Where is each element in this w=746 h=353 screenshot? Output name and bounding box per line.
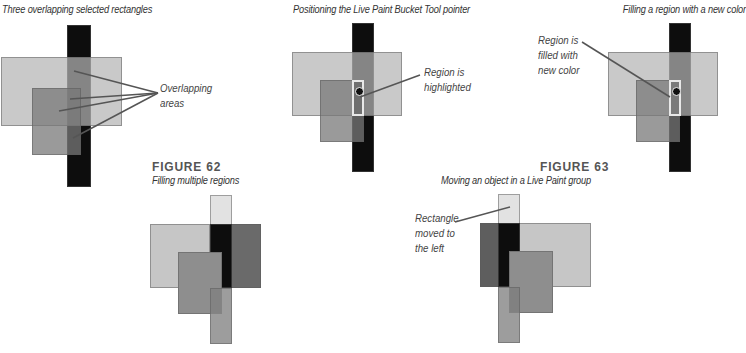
panel-3-caption: Filling a region with a new color xyxy=(623,3,746,15)
tall-rectangle-top xyxy=(210,195,232,225)
tall-rectangle-bottom xyxy=(498,287,520,343)
dark-fill-region xyxy=(231,224,261,288)
callout-rectangle-moved: Rectangle moved to the left xyxy=(415,211,459,256)
panel-2-caption: Positioning the Live Paint Bucket Tool p… xyxy=(293,3,470,15)
dark-rectangle-moved xyxy=(480,223,500,287)
figure-62-caption: Filling multiple regions xyxy=(152,174,239,186)
panel-1-caption: Three overlapping selected rectangles xyxy=(2,3,152,15)
figure-63-caption: Moving an object in a Live Paint group xyxy=(441,174,591,186)
callout-region-highlighted: Region is highlighted xyxy=(424,65,471,95)
filled-region xyxy=(669,80,681,116)
paint-bucket-cursor-icon xyxy=(355,87,364,96)
paint-bucket-cursor-icon xyxy=(672,87,681,96)
tall-rectangle-bottom xyxy=(210,288,232,344)
figure-62-label: FIGURE 62 xyxy=(152,160,221,174)
mid-rectangle xyxy=(32,88,81,155)
callout-overlapping-areas: Overlapping areas xyxy=(160,81,212,111)
highlighted-region xyxy=(352,80,364,116)
callout-region-filled: Region is filled with new color xyxy=(538,33,579,78)
tall-rectangle-top xyxy=(498,194,520,224)
figure-63-label: FIGURE 63 xyxy=(540,160,609,174)
